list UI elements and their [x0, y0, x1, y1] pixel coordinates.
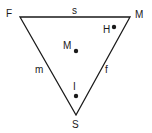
point-dot-i: [74, 94, 78, 98]
point-label-h: H: [103, 24, 110, 35]
point-label-i: I: [73, 81, 76, 92]
edge-label-top: s: [72, 5, 77, 16]
point-dot-h: [112, 25, 116, 29]
point-dot-m: [74, 49, 78, 53]
vertex-label-top-right: M: [135, 9, 143, 20]
triangle-diagram: F M S s m f H M I: [0, 0, 152, 133]
vertex-label-bottom: S: [72, 119, 79, 130]
point-label-m: M: [63, 40, 71, 51]
vertex-label-top-left: F: [6, 8, 12, 19]
edge-label-left: m: [35, 64, 43, 75]
edge-label-right: f: [105, 64, 108, 75]
